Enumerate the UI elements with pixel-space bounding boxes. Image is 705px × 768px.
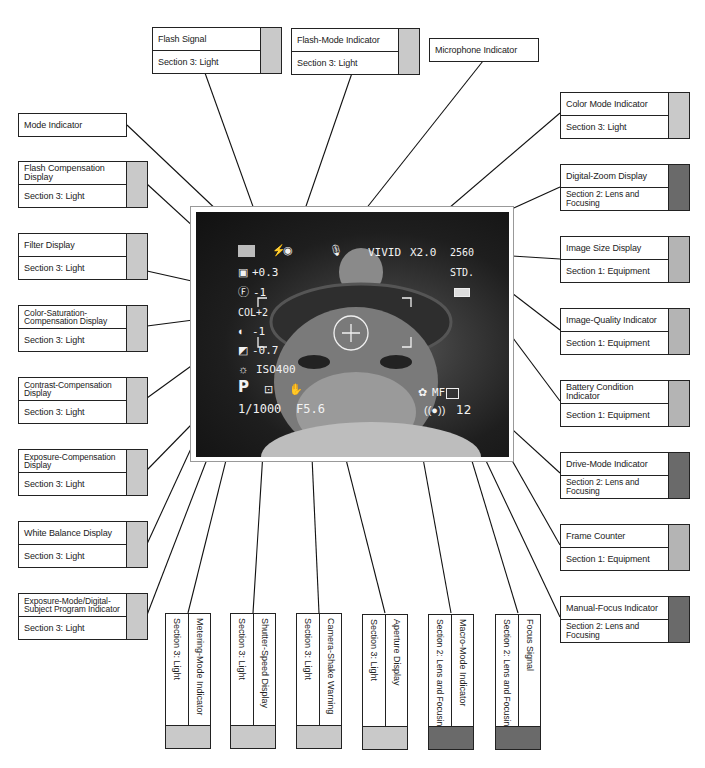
section-swatch <box>363 726 407 749</box>
section-swatch <box>126 234 147 279</box>
contrast-icon: ◐ <box>238 326 245 337</box>
flower-macro-icon: ✿ <box>418 387 427 398</box>
label-aperture: Section 3: Light Aperture Display <box>362 614 408 750</box>
filter-icon: Ⓕ <box>238 287 249 298</box>
exposure-mode-value: P <box>238 382 249 393</box>
label-contrast-compensation: Contrast-Compensation DisplaySection 3: … <box>18 377 148 424</box>
label-battery-condition: Battery Condition IndicatorSection 1: Eq… <box>560 380 690 427</box>
label-microphone: Microphone Indicator <box>429 38 539 62</box>
red-eye-icon: ◉ <box>283 245 293 256</box>
label-color-saturation: Color-Saturation-Compensation DisplaySec… <box>18 305 148 352</box>
exposure-compensation-value: -0.7 <box>252 345 279 356</box>
label-mode: Mode Indicator <box>18 113 127 137</box>
battery-icon <box>454 288 470 297</box>
section-swatch <box>668 237 689 282</box>
spot-metering-icon: ⊡ <box>264 384 273 395</box>
flash-compensation-icon: ▣ <box>238 267 248 278</box>
label-filter: Filter DisplaySection 3: Light <box>18 233 148 280</box>
digital-zoom-value: X2.0 <box>410 247 437 258</box>
label-manual-focus: Manual-Focus IndicatorSection 2: Lens an… <box>560 596 690 643</box>
lcd-screen: ⚡ ◉ 🎙 ▣ +0.3 Ⓕ -1 COL+2 ◐ -1 ◩ -0.7 ☼ IS… <box>196 212 509 457</box>
label-camera-shake: Section 3: Light Camera-Shake Warning <box>296 613 342 749</box>
section-swatch <box>231 725 275 748</box>
section-swatch <box>668 309 689 354</box>
focus-signal-icon: ((●)) <box>424 405 445 416</box>
flash-compensation-value: +0.3 <box>252 267 279 278</box>
image-quality-value: STD. <box>450 267 474 278</box>
microphone-icon: 🎙 <box>329 245 343 256</box>
section-swatch <box>297 725 341 748</box>
contrast-value: -1 <box>252 326 265 337</box>
label-shutter-speed: Section 3: Light Shutter-Speed Display <box>230 613 276 749</box>
label-exposure-compensation: Exposure-Compensation DisplaySection 3: … <box>18 449 148 496</box>
label-drive-mode: Drive-Mode IndicatorSection 2: Lens and … <box>560 452 690 499</box>
section-swatch <box>126 450 147 495</box>
single-frame-icon <box>446 388 459 399</box>
label-exposure-mode: Exposure-Mode/Digital-Subject Program In… <box>18 593 148 640</box>
label-flash-mode: Flash-Mode IndicatorSection 3: Light <box>291 28 420 75</box>
image-size-value: 2560 <box>450 247 474 258</box>
manual-focus-value: MF <box>432 387 445 398</box>
exposure-compensation-icon: ◩ <box>238 345 248 356</box>
frame-counter-value: 12 <box>456 405 471 416</box>
section-swatch <box>166 725 210 748</box>
section-swatch <box>668 165 689 210</box>
label-image-quality: Image-Quality IndicatorSection 1: Equipm… <box>560 308 690 355</box>
section-swatch <box>260 28 281 73</box>
camera-mode-icon <box>238 245 255 257</box>
label-color-mode: Color Mode IndicatorSection 3: Light <box>560 92 690 139</box>
shutter-speed-value: 1/1000 <box>238 404 281 415</box>
label-focus-signal: Section 2: Lens and Focusing Focus Signa… <box>495 614 541 750</box>
color-saturation-value: COL+2 <box>238 307 268 318</box>
section-swatch <box>126 522 147 567</box>
label-image-size: Image Size DisplaySection 1: Equipment <box>560 236 690 283</box>
hand-shake-icon: ✋ <box>289 384 303 395</box>
section-swatch <box>668 93 689 138</box>
section-swatch <box>126 162 147 207</box>
label-white-balance: White Balance DisplaySection 3: Light <box>18 521 148 568</box>
sun-icon: ☼ <box>238 364 248 375</box>
label-flash-signal: Flash SignalSection 3: Light <box>152 27 282 74</box>
iso-value: ISO400 <box>256 364 296 375</box>
aperture-value: F5.6 <box>296 404 325 415</box>
section-swatch <box>668 597 689 642</box>
label-digital-zoom: Digital-Zoom DisplaySection 2: Lens and … <box>560 164 690 211</box>
label-frame-counter: Frame CounterSection 1: Equipment <box>560 524 690 571</box>
label-metering-mode: Section 3: Light Metering-Mode Indicator <box>165 613 211 749</box>
section-swatch <box>668 453 689 498</box>
section-swatch <box>668 525 689 570</box>
filter-value: -1 <box>253 287 266 298</box>
label-flash-compensation: Flash Compensation DisplaySection 3: Lig… <box>18 161 148 208</box>
section-swatch <box>429 726 473 749</box>
section-swatch <box>398 29 419 74</box>
section-swatch <box>668 381 689 426</box>
color-mode-value: VIVID <box>368 247 401 258</box>
section-swatch <box>126 306 147 351</box>
label-macro-mode: Section 2: Lens and Focusing Macro-Mode … <box>428 614 474 750</box>
section-swatch <box>126 594 147 639</box>
section-swatch <box>126 378 147 423</box>
section-swatch <box>496 726 540 749</box>
